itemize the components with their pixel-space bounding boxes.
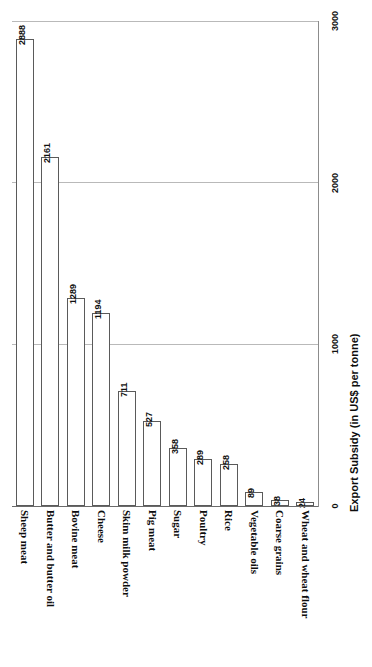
bar-value-label: 527 (144, 412, 154, 427)
category-label: Wheat and wheat flour (300, 510, 312, 618)
category-label: Sheep meat (19, 510, 31, 564)
value-axis-tick-label: 0 (329, 493, 341, 519)
bar-value-label: 2161 (42, 143, 52, 163)
value-axis-zero-line (12, 506, 318, 507)
category-label: Cheese (96, 510, 108, 543)
export-subsidy-bar-chart: 2888216112891194711527358289258893824 Sh… (0, 0, 372, 667)
category-label: Rice (223, 510, 235, 531)
value-axis-tick-label: 1000 (329, 331, 341, 357)
value-axis-title-container: Export Subsidy (in US$ per tonne) (348, 0, 372, 520)
category-axis-line (318, 21, 319, 507)
value-labels-layer: 2888216112891194711527358289258893824 (12, 0, 318, 510)
bar-value-label: 358 (170, 439, 180, 454)
bar-value-label: 258 (221, 455, 231, 470)
category-label: Vegetable oils (249, 510, 261, 574)
value-axis-tick-label: 2000 (329, 170, 341, 196)
bar-value-label: 711 (119, 383, 129, 398)
category-labels-layer: Sheep meatButter and butter oilBovine me… (12, 510, 318, 660)
bar-value-label: 2888 (17, 25, 27, 45)
category-label: Skim milk powder (121, 510, 133, 597)
category-label: Sugar (172, 510, 184, 538)
bar-value-label: 289 (195, 450, 205, 465)
bar-value-label: 38 (272, 496, 282, 506)
bar-value-label: 1289 (68, 284, 78, 304)
category-label: Bovine meat (70, 510, 82, 568)
bar-value-label: 1194 (93, 299, 103, 319)
bar-value-label: 89 (246, 488, 256, 498)
category-label: Poultry (198, 510, 210, 545)
value-axis-tick-label: 3000 (329, 8, 341, 34)
category-label: Coarse grains (274, 510, 286, 575)
value-axis-title: Export Subsidy (in US$ per tonne) (348, 334, 360, 512)
category-label: Butter and butter oil (45, 510, 57, 607)
category-label: Pig meat (147, 510, 159, 551)
